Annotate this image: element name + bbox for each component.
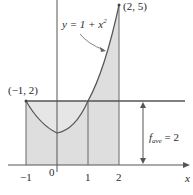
point-right [118,4,121,7]
x-axis-label: x [184,172,190,184]
tick-label-neg1: −1 [20,171,32,183]
arrow-down-icon [140,158,146,164]
point-left [25,100,28,103]
arrow-up-icon [140,102,146,108]
point-left-label: (−1, 2) [8,84,38,97]
tick-label-2: 2 [116,171,122,183]
tick-label-1: 1 [85,171,91,183]
average-value-diagram: y = 1 + x2 (2, 5) (−1, 2) fave = 2 −1 0 … [0,0,193,195]
fave-label: fave = 2 [149,131,179,145]
label-pointer-arrow-icon [100,47,106,52]
x-axis-arrow-icon [183,162,190,168]
point-right-label: (2, 5) [123,0,147,13]
tick-label-0: 0 [49,166,55,178]
curve-label: y = 1 + x2 [61,17,107,30]
